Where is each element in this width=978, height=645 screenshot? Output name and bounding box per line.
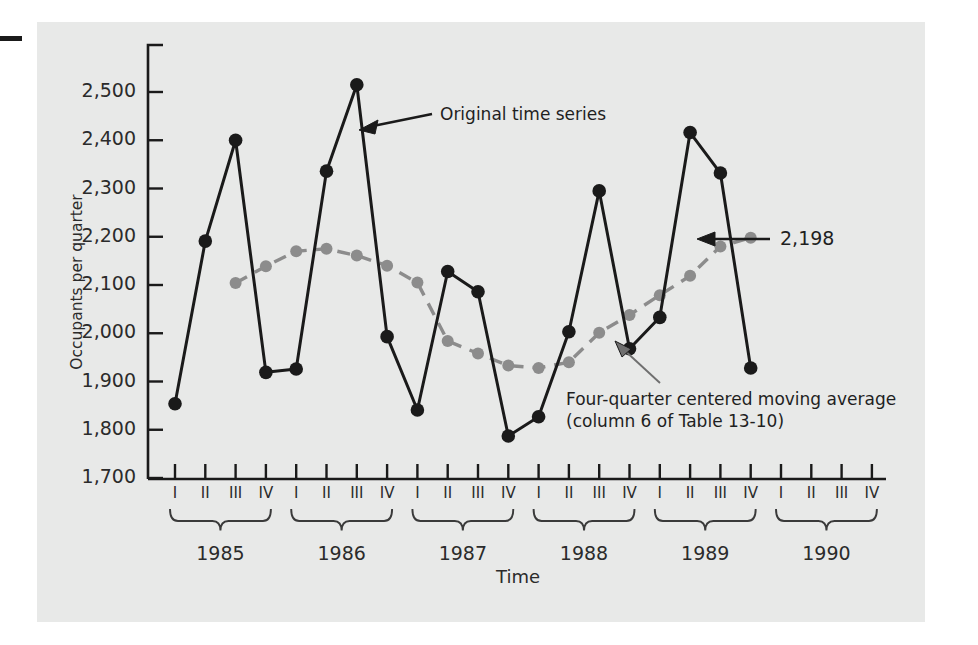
data-point (593, 327, 605, 339)
data-point (230, 277, 242, 289)
data-point (351, 250, 363, 262)
x-axis-quarter-label: III (344, 484, 370, 502)
data-point (684, 270, 696, 282)
data-point (259, 366, 273, 380)
x-axis-year-label: 1990 (766, 542, 886, 564)
x-axis-quarter-label: IV (374, 484, 400, 502)
x-axis-year-label: 1987 (403, 542, 523, 564)
value-callout-arrowhead (697, 232, 715, 246)
annotation-original-series: Original time series (440, 103, 606, 125)
data-point (199, 234, 213, 248)
data-point (714, 166, 728, 180)
y-axis-tick-label: 1,900 (48, 369, 136, 391)
data-point (321, 243, 333, 255)
x-axis-year-label: 1988 (524, 542, 644, 564)
y-axis-tick-label: 2,200 (48, 224, 136, 246)
data-point (441, 265, 455, 279)
y-axis-tick-label: 2,100 (48, 272, 136, 294)
x-axis-ticks (175, 464, 872, 479)
data-point (653, 311, 667, 325)
y-axis-line (148, 45, 163, 479)
x-axis-quarter-label: IV (495, 484, 521, 502)
x-axis-quarter-label: II (677, 484, 703, 502)
annotation-moving-average-line2: (column 6 of Table 13-10) (566, 410, 784, 432)
x-axis-quarter-label: I (768, 484, 794, 502)
x-axis-year-label: 1986 (282, 542, 402, 564)
data-point (260, 260, 272, 272)
moving-average-leader (622, 348, 660, 383)
x-axis-quarter-label: IV (253, 484, 279, 502)
x-axis-quarter-label: III (465, 484, 491, 502)
annotation-value-callout: 2,198 (780, 226, 834, 251)
figure-container: Occupants per quarter 2,5002,4002,3002,2… (0, 0, 978, 645)
y-axis-tick-label: 2,500 (48, 79, 136, 101)
x-axis-quarter-label: I (404, 484, 430, 502)
x-axis-quarter-label: III (586, 484, 612, 502)
data-point (411, 277, 423, 289)
x-axis-year-label: 1989 (645, 542, 765, 564)
data-point (168, 397, 182, 411)
y-axis-tick-label: 2,400 (48, 127, 136, 149)
series-moving-average (230, 232, 757, 374)
annotation-moving-average-line1: Four-quarter centered moving average (566, 388, 896, 410)
y-axis-tick-label: 1,800 (48, 417, 136, 439)
data-point (563, 356, 575, 368)
y-axis-tick-label: 2,000 (48, 320, 136, 342)
data-point (744, 361, 758, 375)
series-line (175, 85, 751, 436)
data-point (683, 126, 697, 140)
data-point (472, 348, 484, 360)
x-axis-quarter-label: III (707, 484, 733, 502)
data-point (350, 78, 364, 92)
x-axis-quarter-label: IV (617, 484, 643, 502)
data-point (502, 429, 516, 443)
data-point (471, 285, 485, 299)
x-axis-quarter-label: II (192, 484, 218, 502)
data-point (714, 240, 726, 252)
x-axis-quarter-label: II (314, 484, 340, 502)
x-axis-quarter-label: I (647, 484, 673, 502)
x-axis-quarter-label: II (798, 484, 824, 502)
y-axis-tick-label: 2,300 (48, 176, 136, 198)
x-axis-quarter-label: I (283, 484, 309, 502)
data-point (502, 360, 514, 372)
y-axis-tick-label: 1,700 (48, 465, 136, 487)
data-point (562, 325, 576, 339)
x-axis-quarter-label: IV (738, 484, 764, 502)
data-point (289, 362, 303, 376)
x-axis-quarter-label: III (829, 484, 855, 502)
data-point (411, 403, 425, 417)
data-point (380, 330, 394, 344)
x-axis-quarter-label: II (556, 484, 582, 502)
data-point (320, 164, 334, 178)
data-point (290, 245, 302, 257)
data-point (745, 232, 757, 244)
x-axis-quarter-label: IV (859, 484, 885, 502)
data-point (442, 335, 454, 347)
x-axis-quarter-label: I (526, 484, 552, 502)
data-point (592, 184, 606, 198)
data-point (229, 133, 243, 147)
data-point (381, 260, 393, 272)
x-axis-quarter-label: II (435, 484, 461, 502)
data-point (532, 410, 546, 424)
x-axis-quarter-label: III (223, 484, 249, 502)
x-axis-label: Time (458, 566, 578, 587)
x-axis-year-label: 1985 (160, 542, 280, 564)
data-point (533, 362, 545, 374)
y-axis-ticks (148, 92, 163, 478)
x-axis-quarter-label: I (162, 484, 188, 502)
year-braces (170, 509, 877, 531)
